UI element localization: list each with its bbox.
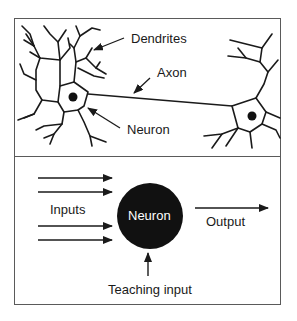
artificial-neuron-label: Neuron [128,209,171,222]
left-nucleus [69,93,78,102]
dendrites-pointer [94,38,124,50]
axon-line [88,94,232,106]
left-neuron-cell [18,26,106,146]
inputs-label: Inputs [50,203,85,216]
output-label: Output [206,215,245,228]
right-neuron-cell [204,34,280,148]
neuron-diagram: Dendrites Axon Neuron Inputs Neuron Outp… [0,0,297,321]
teaching-input-label: Teaching input [108,283,192,296]
diagram-drawing [0,0,297,321]
dendrites-label: Dendrites [131,32,187,45]
axon-label: Axon [157,66,187,79]
right-nucleus [248,112,257,121]
neuron-pointer [88,108,120,128]
axon-pointer [134,78,150,93]
neuron-label: Neuron [127,123,170,136]
